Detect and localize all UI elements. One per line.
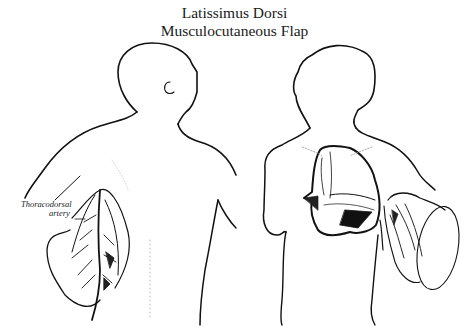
- thoracodorsal-artery-label: Thoracodorsal artery: [21, 200, 72, 218]
- front-view-figure: [264, 46, 465, 325]
- label-line-2: artery: [21, 209, 72, 218]
- back-view-figure: [25, 43, 236, 325]
- illustration: [0, 0, 469, 332]
